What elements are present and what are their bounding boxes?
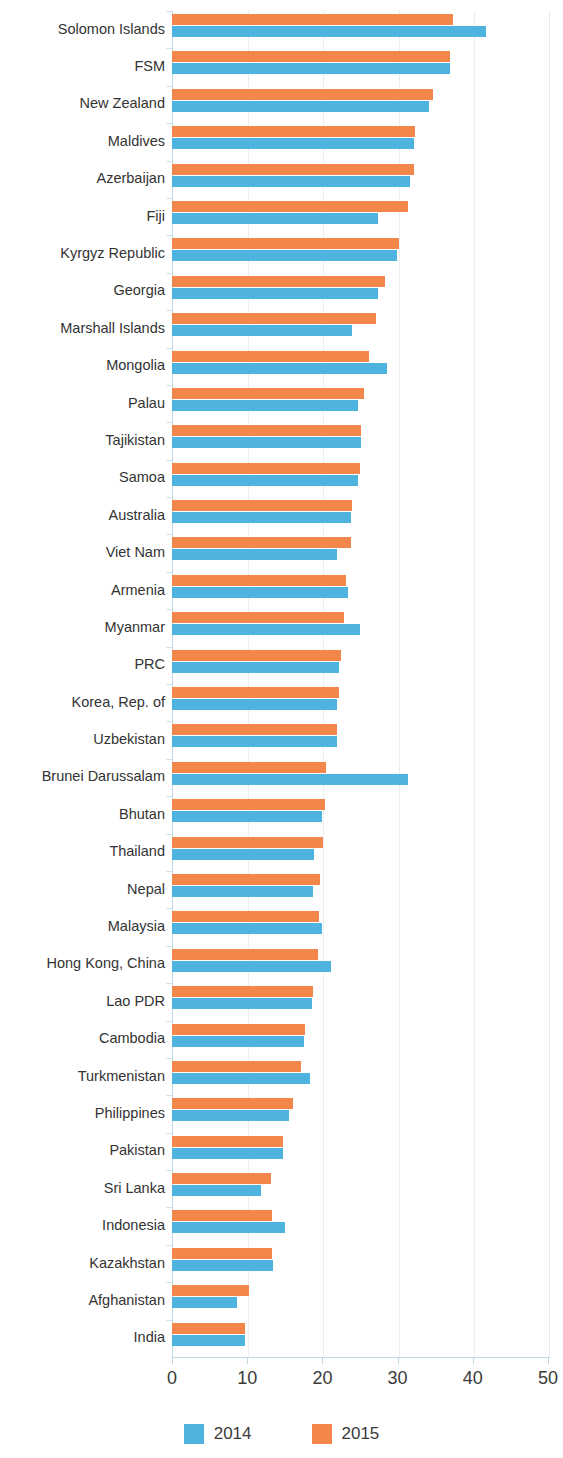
category-label: FSM <box>0 58 165 74</box>
bar-2015 <box>172 238 399 249</box>
bar-2014 <box>172 325 352 336</box>
bar-2015 <box>172 388 364 399</box>
bar-row <box>172 908 548 945</box>
bar-2014 <box>172 587 348 598</box>
bar-2014 <box>172 549 337 560</box>
y-tick-mark <box>166 385 172 386</box>
legend-label-2014: 2014 <box>214 1424 252 1444</box>
category-label: Philippines <box>0 1105 165 1121</box>
bar-row <box>172 460 548 497</box>
bar-2015 <box>172 1173 271 1184</box>
bar-2014 <box>172 63 450 74</box>
x-tick-label: 50 <box>518 1368 563 1389</box>
bar-row <box>172 572 548 609</box>
bar-2014 <box>172 1148 283 1159</box>
bar-row <box>172 1058 548 1095</box>
bar-rows <box>172 11 548 1357</box>
bar-2015 <box>172 463 360 474</box>
bar-row <box>172 534 548 571</box>
bar-2014 <box>172 736 337 747</box>
bar-row <box>172 609 548 646</box>
category-label: Armenia <box>0 582 165 598</box>
bar-row <box>172 871 548 908</box>
bar-row <box>172 48 548 85</box>
bar-row <box>172 235 548 272</box>
y-tick-mark <box>166 759 172 760</box>
bar-row <box>172 759 548 796</box>
category-label: Kyrgyz Republic <box>0 245 165 261</box>
bar-2014 <box>172 213 378 224</box>
y-tick-mark <box>166 983 172 984</box>
horizontal-bar-chart: Solomon IslandsFSMNew ZealandMaldivesAze… <box>0 0 563 1458</box>
bar-2015 <box>172 351 369 362</box>
bar-2014 <box>172 1073 310 1084</box>
category-label: Fiji <box>0 208 165 224</box>
x-tick-label: 10 <box>217 1368 277 1389</box>
y-tick-mark <box>166 796 172 797</box>
bar-2015 <box>172 1210 272 1221</box>
category-label: Turkmenistan <box>0 1068 165 1084</box>
legend-item-2014: 2014 <box>184 1424 252 1444</box>
bar-2014 <box>172 26 486 37</box>
bar-2014 <box>172 1110 289 1121</box>
bar-row <box>172 983 548 1020</box>
bar-2014 <box>172 624 360 635</box>
y-tick-mark <box>166 1021 172 1022</box>
bar-row <box>172 1095 548 1132</box>
bar-row <box>172 11 548 48</box>
bar-2014 <box>172 288 378 299</box>
bar-row <box>172 1245 548 1282</box>
category-label: Malaysia <box>0 918 165 934</box>
bar-row <box>172 273 548 310</box>
category-label: New Zealand <box>0 95 165 111</box>
bar-2015 <box>172 874 320 885</box>
x-tick-label: 0 <box>142 1368 202 1389</box>
bar-2015 <box>172 1285 249 1296</box>
bar-row <box>172 86 548 123</box>
y-tick-mark <box>166 86 172 87</box>
bar-2014 <box>172 1297 237 1308</box>
bar-row <box>172 1320 548 1357</box>
bar-2015 <box>172 762 326 773</box>
y-tick-mark <box>166 1207 172 1208</box>
bar-2015 <box>172 126 415 137</box>
bar-row <box>172 385 548 422</box>
y-tick-mark <box>166 1320 172 1321</box>
bar-2015 <box>172 1323 245 1334</box>
bar-2014 <box>172 400 358 411</box>
category-label: Cambodia <box>0 1030 165 1046</box>
category-label: Palau <box>0 395 165 411</box>
bar-2014 <box>172 138 414 149</box>
x-tick-label: 30 <box>368 1368 428 1389</box>
y-tick-mark <box>166 235 172 236</box>
x-tick-label: 40 <box>443 1368 503 1389</box>
y-tick-mark <box>166 123 172 124</box>
x-tick-mark <box>473 1358 474 1364</box>
bar-2015 <box>172 650 341 661</box>
bar-2015 <box>172 687 339 698</box>
bar-row <box>172 123 548 160</box>
category-label: Uzbekistan <box>0 731 165 747</box>
x-tick-mark <box>548 1358 549 1364</box>
bar-2015 <box>172 276 385 287</box>
y-tick-mark <box>166 11 172 12</box>
category-label: Lao PDR <box>0 993 165 1009</box>
bar-2015 <box>172 537 351 548</box>
bar-2014 <box>172 1036 304 1047</box>
bar-2014 <box>172 1185 261 1196</box>
bar-2014 <box>172 961 331 972</box>
x-tick-mark <box>398 1358 399 1364</box>
category-label: Bhutan <box>0 806 165 822</box>
chart-legend: 2014 2015 <box>0 1424 563 1444</box>
bar-2014 <box>172 811 322 822</box>
y-tick-mark <box>166 908 172 909</box>
bar-2015 <box>172 986 313 997</box>
y-tick-mark <box>166 497 172 498</box>
category-label: Hong Kong, China <box>0 955 165 971</box>
bar-row <box>172 497 548 534</box>
category-label: Marshall Islands <box>0 320 165 336</box>
y-tick-mark <box>166 572 172 573</box>
bar-row <box>172 684 548 721</box>
x-tick-mark <box>172 1358 173 1364</box>
y-tick-mark <box>166 273 172 274</box>
